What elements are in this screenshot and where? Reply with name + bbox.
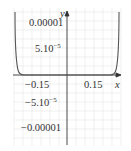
x-tick-label-pos: 0.15 [84,80,102,91]
chart-plot-area [0,0,131,151]
y-tick-label-neg5e-5: −5.10−5 [25,97,57,109]
y-tick-label-5e-5: 5.10−5 [35,43,61,55]
y-tick-label-bottom: −0.00001 [21,123,61,134]
x-tick-label-neg: −0.15 [25,80,49,91]
x-axis-arrow-icon [116,73,121,77]
y-tick-label-top: 0.00001 [29,18,63,29]
x-axis-label: x [115,80,120,91]
